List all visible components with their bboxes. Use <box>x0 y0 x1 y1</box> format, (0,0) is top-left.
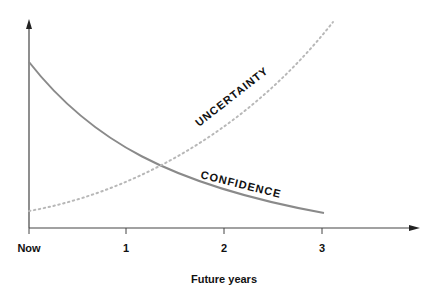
tick-label-3: 3 <box>319 242 325 254</box>
tick-label-now: Now <box>17 242 41 254</box>
uncertainty-label: UNCERTAINTY <box>193 64 271 128</box>
tick-label-2: 2 <box>221 242 227 254</box>
uncertainty-curve <box>29 22 333 211</box>
chart-canvas: Now 1 2 3 Future years UNCERTAINTY CONFI… <box>0 0 435 297</box>
tick-label-1: 1 <box>123 242 129 254</box>
x-axis-arrow-icon <box>409 225 420 231</box>
x-axis-title: Future years <box>191 273 257 285</box>
y-axis-arrow-icon <box>26 19 32 29</box>
